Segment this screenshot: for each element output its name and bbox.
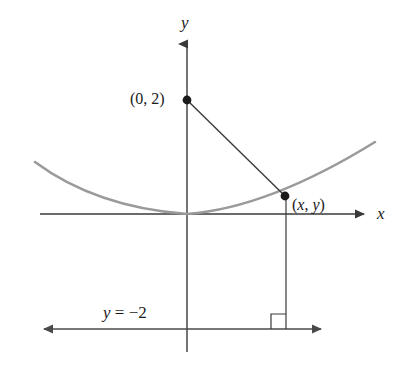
curve-point-paren-close: ) [320, 196, 325, 213]
directrix-equation: = −2 [111, 303, 147, 322]
curve-point-y: y [312, 196, 319, 213]
directrix-label: y = −2 [103, 304, 147, 321]
directrix-variable: y [103, 303, 111, 322]
figure-canvas [0, 0, 405, 374]
focus-point-dot [183, 96, 192, 105]
curve-point-label: (x, y) [292, 197, 325, 213]
x-axis-label: x [377, 205, 385, 222]
focal-segment [187, 100, 285, 196]
curve-point-dot [281, 192, 290, 201]
parabola-figure: y x (0, 2) (x, y) y = −2 [0, 0, 405, 374]
focus-point-label: (0, 2) [130, 91, 165, 107]
right-angle-marker [271, 314, 286, 329]
y-axis-label: y [181, 14, 189, 31]
